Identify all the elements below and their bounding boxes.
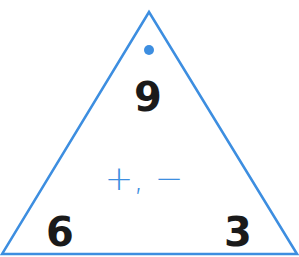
bottom-left-number: 6 bbox=[46, 212, 74, 252]
top-number: 9 bbox=[134, 77, 162, 117]
dot-icon bbox=[144, 45, 154, 55]
fact-triangle bbox=[0, 0, 299, 257]
bottom-right-number: 3 bbox=[224, 212, 252, 252]
operations-label: +, − bbox=[105, 161, 184, 195]
